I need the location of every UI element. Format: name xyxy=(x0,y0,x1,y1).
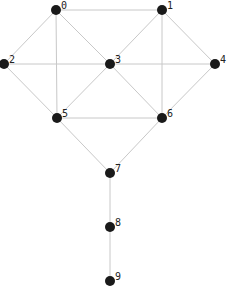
node-dot xyxy=(52,113,62,123)
node-label: 3 xyxy=(115,54,121,65)
node-6: 6 xyxy=(157,108,173,123)
node-5: 5 xyxy=(52,108,68,123)
node-dot xyxy=(105,168,115,178)
node-label: 4 xyxy=(220,54,226,65)
graph-diagram: 0123456789 xyxy=(0,0,230,288)
node-label: 7 xyxy=(115,163,121,174)
node-label: 8 xyxy=(115,217,121,228)
node-2: 2 xyxy=(0,54,15,69)
node-label: 2 xyxy=(9,54,15,65)
node-label: 0 xyxy=(61,0,67,11)
node-8: 8 xyxy=(105,217,121,232)
node-1: 1 xyxy=(157,0,173,15)
node-4: 4 xyxy=(210,54,226,69)
node-7: 7 xyxy=(105,163,121,178)
node-3: 3 xyxy=(105,54,121,69)
edge-1-4 xyxy=(162,10,215,64)
node-dot xyxy=(105,59,115,69)
node-label: 5 xyxy=(62,108,68,119)
node-dot xyxy=(157,113,167,123)
node-dot xyxy=(157,5,167,15)
node-dot xyxy=(105,222,115,232)
node-0: 0 xyxy=(51,0,67,15)
edge-3-6 xyxy=(110,64,162,118)
edge-2-5 xyxy=(4,64,57,118)
node-9: 9 xyxy=(105,271,121,286)
node-label: 9 xyxy=(115,271,121,282)
node-dot xyxy=(105,276,115,286)
node-label: 1 xyxy=(167,0,173,11)
edge-0-3 xyxy=(56,10,110,64)
node-label: 6 xyxy=(167,108,173,119)
node-dot xyxy=(51,5,61,15)
node-dot xyxy=(210,59,220,69)
edges-group xyxy=(4,10,215,281)
edge-5-7 xyxy=(57,118,110,173)
nodes-group: 0123456789 xyxy=(0,0,226,286)
